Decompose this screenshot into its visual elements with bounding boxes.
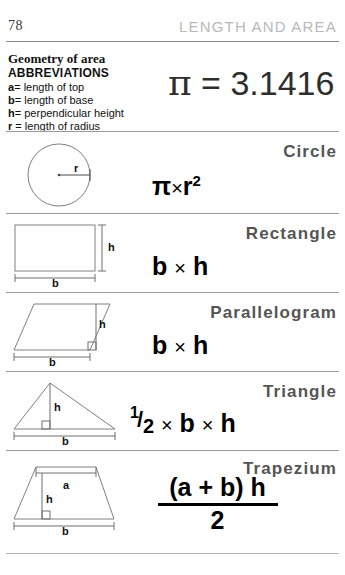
triangle-height-label: h bbox=[54, 401, 61, 413]
abbreviations-subtitle: ABBREVIATIONS bbox=[8, 66, 173, 81]
formula-term-b: b bbox=[152, 252, 167, 280]
formula-trapezium: (a + b) h 2 bbox=[155, 473, 280, 535]
abbr-equals: = bbox=[15, 107, 21, 119]
abbr-equals: = bbox=[14, 81, 20, 93]
fraction-denominator: 2 bbox=[143, 415, 154, 438]
formula-circle: π×r2 bbox=[152, 172, 201, 201]
section-title-triangle: Triangle bbox=[263, 382, 337, 402]
trapezium-top-label: a bbox=[63, 479, 69, 491]
abbreviations-block: Geometry of area ABBREVIATIONS a= length… bbox=[8, 52, 173, 133]
formula-triangle: 1 / 2 × b × h bbox=[130, 409, 236, 438]
parallelogram-base-label: b bbox=[49, 356, 56, 368]
parallelogram-height-label: h bbox=[99, 318, 106, 330]
formula-operator: × bbox=[174, 257, 186, 279]
section-title-rectangle: Rectangle bbox=[246, 224, 337, 244]
trapezium-base-label: b bbox=[62, 525, 69, 537]
section-title-circle: Circle bbox=[283, 142, 337, 162]
page-root: 78 LENGTH AND AREA Geometry of area ABBR… bbox=[0, 0, 345, 575]
rectangle-height-label: h bbox=[108, 241, 115, 253]
formula-operator: × bbox=[171, 177, 183, 199]
section-rectangle: Rectangle h b b × h bbox=[0, 218, 345, 288]
abbreviation-item: b= length of base bbox=[8, 94, 173, 107]
circle-radius-label: r bbox=[74, 162, 78, 174]
formula-parallelogram: b × h bbox=[152, 331, 208, 360]
section-divider-circle bbox=[6, 131, 339, 132]
section-divider-triangle bbox=[6, 371, 339, 372]
formula-term-b: b bbox=[180, 409, 195, 437]
section-parallelogram: Parallelogram h b b × h bbox=[0, 297, 345, 367]
section-triangle: Triangle h b 1 / 2 × b × h bbox=[0, 376, 345, 446]
section-divider-trapezium bbox=[6, 450, 339, 451]
pi-symbol: π bbox=[168, 62, 192, 103]
abbr-symbol: h bbox=[8, 107, 15, 119]
formula-term-h: h bbox=[193, 252, 208, 280]
section-divider-parallelogram bbox=[6, 292, 339, 293]
formula-rectangle: b × h bbox=[152, 252, 208, 281]
pi-constant: π = 3.1416 bbox=[168, 62, 345, 103]
fraction-denominator: 2 bbox=[155, 506, 280, 535]
page-number: 78 bbox=[8, 18, 23, 34]
formula-term-b: b bbox=[152, 331, 167, 359]
rectangle-base-label: b bbox=[52, 277, 59, 289]
triangle-diagram: h b bbox=[10, 379, 125, 449]
section-trapezium: Trapezium a h b (a + b) h 2 bbox=[0, 455, 345, 545]
fraction-numerator: (a + b) h bbox=[155, 473, 280, 502]
section-title-parallelogram: Parallelogram bbox=[210, 303, 337, 323]
page-header: 78 LENGTH AND AREA bbox=[0, 18, 345, 40]
abbreviations-title: Geometry of area bbox=[8, 52, 173, 66]
abbr-definition: length of top bbox=[24, 81, 85, 93]
abbr-symbol: b bbox=[8, 94, 15, 106]
formula-term-h: h bbox=[193, 331, 208, 359]
formula-operator: × bbox=[174, 336, 186, 358]
abbr-equals: = bbox=[15, 94, 21, 106]
section-circle: Circle r π×r2 bbox=[0, 136, 345, 210]
running-head: LENGTH AND AREA bbox=[179, 18, 337, 35]
formula-operator: × bbox=[202, 414, 214, 436]
formula-term-r: r bbox=[183, 172, 193, 200]
page-bottom-divider bbox=[6, 553, 339, 554]
formula-exponent: 2 bbox=[193, 172, 201, 189]
formula-term-pi: π bbox=[152, 172, 171, 200]
abbreviation-item: h= perpendicular height bbox=[8, 107, 173, 120]
section-divider-rectangle bbox=[6, 213, 339, 214]
abbr-definition: length of base bbox=[24, 94, 93, 106]
trapezium-height-label: h bbox=[46, 493, 53, 505]
one-half-fraction: 1 / 2 bbox=[130, 412, 154, 438]
triangle-base-label: b bbox=[62, 435, 69, 447]
header-divider bbox=[6, 41, 339, 42]
circle-diagram: r bbox=[14, 140, 114, 214]
parallelogram-diagram: h b bbox=[10, 300, 120, 370]
trapezium-diagram: a h b bbox=[10, 463, 125, 539]
abbr-definition: perpendicular height bbox=[24, 107, 124, 119]
rectangle-diagram: h b bbox=[10, 221, 120, 291]
formula-term-h: h bbox=[220, 409, 235, 437]
pi-equals-value: = 3.1416 bbox=[192, 64, 335, 102]
formula-operator: × bbox=[161, 414, 173, 436]
abbreviation-item: a= length of top bbox=[8, 81, 173, 94]
